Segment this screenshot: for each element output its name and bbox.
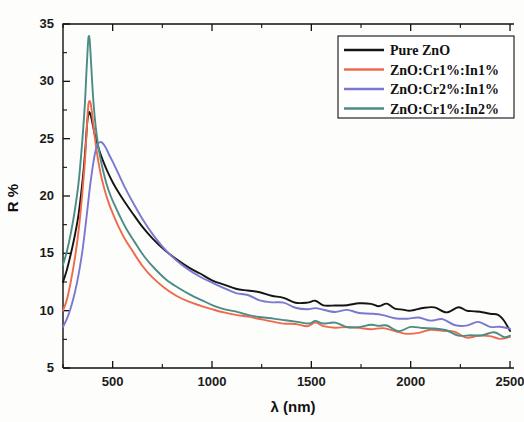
y-axis-ticks: [63, 24, 70, 368]
chart-canvas: 5001000150020002500 5101520253035 λ (nm)…: [0, 0, 524, 422]
reflectance-spectra-figure: 5001000150020002500 5101520253035 λ (nm)…: [0, 0, 524, 422]
x-axis-title: λ (nm): [271, 398, 316, 415]
legend-label-0: Pure ZnO: [390, 43, 450, 58]
legend: Pure ZnOZnO:Cr1%:In1%ZnO:Cr2%:In1%ZnO:Cr…: [338, 36, 514, 118]
x-axis-tick-labels: 5001000150020002500: [102, 374, 524, 389]
y-tick-label: 10: [40, 303, 54, 318]
y-tick-label: 30: [40, 73, 54, 88]
x-tick-label: 500: [102, 374, 124, 389]
y-tick-label: 35: [40, 16, 54, 31]
x-tick-label: 1500: [297, 374, 326, 389]
curve-series-0: [63, 112, 510, 331]
y-tick-label: 25: [40, 131, 54, 146]
legend-label-1: ZnO:Cr1%:In1%: [390, 63, 499, 78]
x-tick-label: 2500: [496, 374, 524, 389]
y-axis-tick-labels: 5101520253035: [40, 16, 54, 375]
legend-label-3: ZnO:Cr1%:In2%: [390, 102, 499, 117]
y-tick-label: 15: [40, 245, 54, 260]
x-tick-label: 2000: [396, 374, 425, 389]
legend-label-2: ZnO:Cr2%:In1%: [390, 82, 499, 97]
y-tick-label: 20: [40, 188, 54, 203]
y-axis-title: R %: [4, 184, 21, 212]
y-tick-label: 5: [47, 360, 54, 375]
x-tick-label: 1000: [198, 374, 227, 389]
